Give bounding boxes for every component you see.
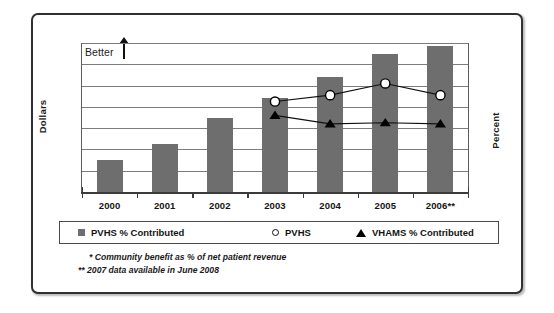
x-axis-label: 2001	[137, 200, 192, 211]
legend-item[interactable]: PVHS	[272, 227, 311, 238]
x-axis-tick	[192, 192, 193, 198]
legend-item[interactable]: VHAMS % Contributed	[356, 227, 474, 238]
x-axis-tick	[468, 187, 469, 198]
circle-marker-icon	[272, 229, 279, 236]
x-axis-label: 2003	[247, 200, 302, 211]
x-axis-tick	[358, 192, 359, 198]
marker-triangle	[380, 118, 391, 126]
legend-label: PVHS % Contributed	[91, 227, 184, 238]
x-axis-label: 2002	[192, 200, 247, 211]
x-axis-tick	[137, 192, 138, 198]
chart-panel: Better Dollars Percent 20002001200220032…	[31, 13, 523, 294]
x-axis-labels: 2000200120022003200420052006**	[82, 200, 468, 216]
line-series-overlay	[82, 43, 468, 192]
legend-label: PVHS	[285, 227, 311, 238]
y-axis-title-left: Dollars	[37, 100, 48, 134]
marker-triangle	[269, 110, 280, 118]
x-axis-tick	[413, 192, 414, 198]
triangle-marker-icon	[356, 229, 366, 237]
legend-item[interactable]: PVHS % Contributed	[78, 227, 184, 238]
x-axis-tick	[247, 192, 248, 198]
footnote-1: * Community benefit as % of net patient …	[89, 251, 489, 264]
x-axis-label: 2006**	[413, 200, 468, 211]
square-marker-icon	[78, 229, 85, 236]
x-axis-label: 2005	[358, 200, 413, 211]
footnotes: * Community benefit as % of net patient …	[89, 251, 489, 277]
footnote-2: ** 2007 data available in June 2008	[78, 264, 489, 277]
marker-circle	[270, 97, 279, 106]
series-line	[275, 83, 440, 101]
y-axis-title-right: Percent	[490, 112, 501, 148]
x-axis-tick	[303, 192, 304, 198]
marker-triangle	[435, 119, 446, 127]
marker-circle	[326, 91, 335, 100]
series-line	[275, 115, 440, 124]
plot-area	[82, 43, 468, 192]
legend-label: VHAMS % Contributed	[372, 227, 474, 238]
chart-legend: PVHS % ContributedPVHSVHAMS % Contribute…	[59, 221, 499, 244]
x-axis-line	[81, 192, 469, 194]
x-axis-label: 2000	[82, 200, 137, 211]
marker-circle	[436, 91, 445, 100]
x-axis-tick	[82, 187, 83, 198]
chart-page: Better Dollars Percent 20002001200220032…	[0, 0, 554, 313]
marker-circle	[381, 79, 390, 88]
x-axis-label: 2004	[303, 200, 358, 211]
